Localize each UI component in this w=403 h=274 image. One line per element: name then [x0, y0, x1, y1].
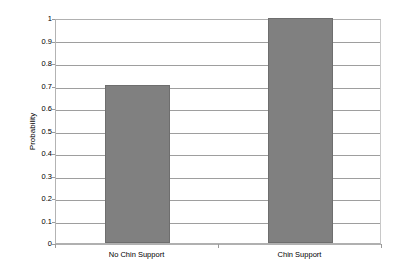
bar-chart: Probability 10.90.80.70.60.50.40.30.20.1…: [0, 0, 403, 274]
x-axis-tick-mark: [55, 244, 56, 248]
y-axis-tick-value: 0.5: [30, 128, 52, 136]
y-axis-tick-label: 0.9: [30, 38, 52, 46]
y-axis-tick-value: 1: [30, 15, 52, 23]
y-axis-tick-value: 0.3: [30, 173, 52, 181]
y-axis-tick-value: 0.4: [30, 150, 52, 158]
y-axis-tick-label: 0.8: [30, 60, 52, 68]
y-axis-tick-label: 1: [30, 15, 52, 23]
bar: [105, 85, 170, 243]
y-axis-tick-label: 0.7: [30, 83, 52, 91]
bar: [268, 18, 333, 243]
y-axis-tick-label: 0.6: [30, 105, 52, 113]
x-axis-category-label: No Chin Support: [55, 250, 218, 260]
y-axis-tick-label: 0.3: [30, 173, 52, 181]
x-axis-category-label: Chin Support: [218, 250, 381, 260]
y-axis-tick-label: 0: [30, 240, 52, 248]
y-axis-tick-label: 0.2: [30, 195, 52, 203]
y-axis-tick-value: 0: [30, 240, 52, 248]
y-axis-tick-value: 0.9: [30, 38, 52, 46]
y-axis-tick-value: 0.8: [30, 60, 52, 68]
y-axis-tick-value: 0.6: [30, 105, 52, 113]
y-axis-tick-label: 0.5: [30, 128, 52, 136]
y-axis-tick-label: 0.1: [30, 218, 52, 226]
y-axis-tick-value: 0.2: [30, 195, 52, 203]
y-axis-tick-label: 0.4: [30, 150, 52, 158]
x-axis-tick-mark: [381, 244, 382, 248]
y-axis-tick-value: 0.1: [30, 218, 52, 226]
plot-area: [55, 19, 381, 244]
x-axis-tick-mark: [218, 244, 219, 248]
y-axis-tick-value: 0.7: [30, 83, 52, 91]
